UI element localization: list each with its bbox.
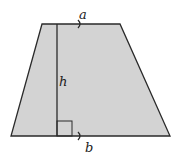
label-b: b	[85, 140, 93, 155]
trapezoid-shape	[11, 24, 170, 136]
label-h: h	[59, 74, 67, 89]
trapezoid-diagram: a h b	[0, 0, 176, 161]
label-a: a	[79, 7, 87, 22]
